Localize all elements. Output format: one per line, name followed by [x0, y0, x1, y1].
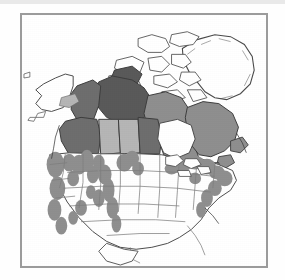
- figure-root: [0, 0, 285, 280]
- region-saskatchewan: [118, 119, 140, 153]
- scan-artifact-band: [0, 0, 285, 4]
- map-frame: [20, 13, 268, 268]
- figure-caption: [20, 270, 268, 278]
- north-america-distribution-map: [22, 15, 266, 266]
